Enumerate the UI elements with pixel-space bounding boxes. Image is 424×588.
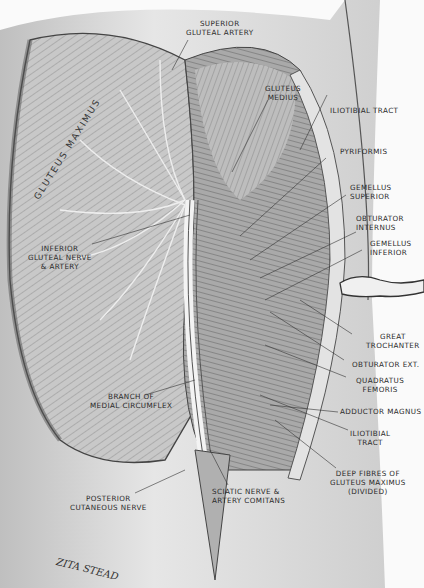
label-obturator-ext: OBTURATOR EXT. — [352, 360, 419, 369]
retractor — [340, 277, 424, 297]
label-great-trochanter: GREAT TROCHANTER — [366, 332, 420, 350]
label-gluteus-medius: GLUTEUS MEDIUS — [265, 84, 301, 102]
label-superior-gluteal-artery: SUPERIOR GLUTEAL ARTERY — [186, 19, 253, 37]
label-branch-medial-circumflex: BRANCH OF MEDIAL CIRCUMFLEX — [90, 392, 172, 410]
anatomy-figure: GLUTEUS MAXIMUS SUPERIOR GLUTEAL ARTERY … — [0, 0, 424, 588]
label-gemellus-superior: GEMELLUS SUPERIOR — [350, 183, 392, 201]
label-gemellus-inferior: GEMELLUS INFERIOR — [370, 239, 412, 257]
label-iliotibial-tract-lower: ILIOTIBIAL TRACT — [350, 429, 390, 447]
label-posterior-cutaneous-nerve: POSTERIOR CUTANEOUS NERVE — [70, 494, 147, 512]
label-iliotibial-tract-upper: ILIOTIBIAL TRACT — [330, 106, 398, 115]
label-deep-fibres-gluteus-maximus: DEEP FIBRES OF GLUTEUS MAXIMUS (DIVIDED) — [330, 469, 406, 496]
label-pyriformis: PYRIFORMIS — [340, 147, 387, 156]
label-adductor-magnus: ADDUCTOR MAGNUS — [340, 407, 421, 416]
label-sciatic-nerve-artery-comitans: SCIATIC NERVE & ARTERY COMITANS — [212, 487, 285, 505]
label-obturator-internus: OBTURATOR INTERNUS — [356, 214, 404, 232]
label-quadratus-femoris: QUADRATUS FEMORIS — [356, 376, 404, 394]
label-inferior-gluteal-nerve-artery: INFERIOR GLUTEAL NERVE & ARTERY — [28, 244, 92, 271]
